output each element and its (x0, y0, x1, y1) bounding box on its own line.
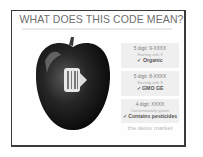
code-box-conventional: 4 digit: XXXX Conventionally grown ✓ Con… (121, 99, 179, 123)
code-box-gmo: 5 digit: 8-XXXX Starting with 8 ✓ GMO GE (121, 71, 179, 96)
code-result: ✓ Organic (121, 57, 179, 64)
infographic-title: WHAT DOES THIS CODE MEAN? (0, 13, 203, 25)
code-label: 5 digit: 8-XXXX (121, 71, 179, 80)
code-result: ✓ Contains pesticides (121, 113, 179, 120)
apple-image (33, 33, 113, 133)
code-box-organic: 5 digit: 9-XXXX Starting with 9 ✓ Organi… (121, 43, 179, 68)
brand-logo: the detox market (121, 125, 179, 131)
subtitle-line (22, 28, 172, 30)
code-result: ✓ GMO GE (121, 85, 179, 92)
code-label: 4 digit: XXXX (121, 99, 179, 108)
code-label: 5 digit: 9-XXXX (121, 43, 179, 52)
